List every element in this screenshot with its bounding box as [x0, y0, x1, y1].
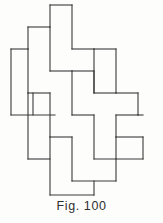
segments-layer: [11, 5, 143, 195]
figure-container: Fig. 100: [0, 0, 163, 223]
pieces-layer: [11, 5, 143, 195]
figure-caption: Fig. 100: [0, 199, 163, 213]
tiling-diagram: [0, 0, 163, 223]
